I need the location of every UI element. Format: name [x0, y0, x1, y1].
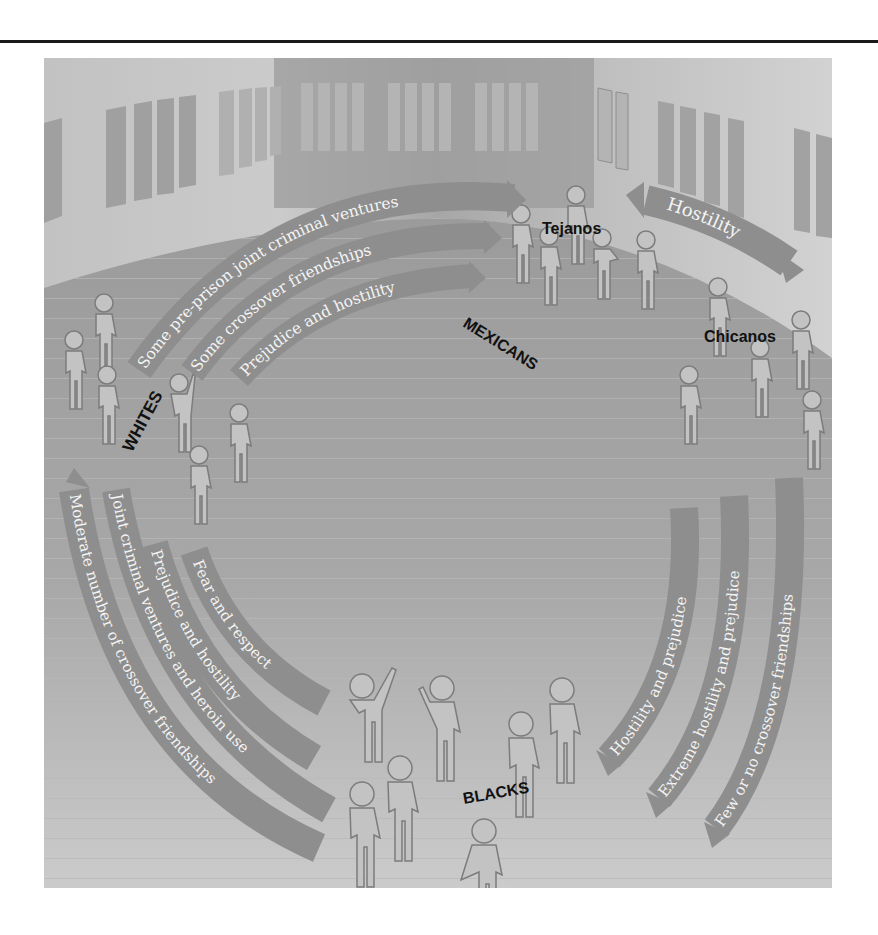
group-label-chicanos: Chicanos: [704, 328, 776, 345]
group-label-tejanos: Tejanos: [542, 220, 601, 237]
diagram-canvas: Some pre-prison joint criminal ventures …: [44, 58, 832, 888]
top-rule: [0, 40, 878, 43]
prison-yard-illustration: Some pre-prison joint criminal ventures …: [44, 58, 832, 888]
